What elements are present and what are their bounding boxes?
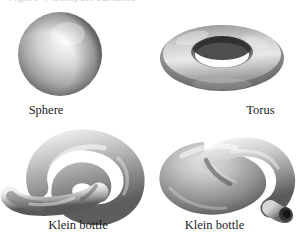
klein-bottle-surface-icon — [0, 126, 148, 226]
caption-klein-bottle-left: Klein bottle — [4, 218, 152, 233]
cut-off-caption-line: Figure 4 Compact surfaces — [8, 0, 168, 3]
caption-sphere: Sphere — [0, 103, 120, 118]
panel-sphere: Sphere — [0, 6, 148, 124]
torus-surface-icon — [148, 6, 297, 106]
caption-torus: Torus — [186, 103, 297, 118]
caption-klein-bottle-right: Klein bottle — [140, 218, 289, 233]
klein-bottle-surface-icon — [148, 126, 297, 226]
figure-container: Figure 4 Compact surfaces — [0, 0, 297, 250]
panel-klein-bottle-right: Klein bottle — [148, 126, 297, 248]
panel-klein-bottle-left: Klein bottle — [0, 126, 148, 248]
panel-torus: Torus — [148, 6, 297, 124]
sphere-surface-icon — [0, 6, 148, 106]
